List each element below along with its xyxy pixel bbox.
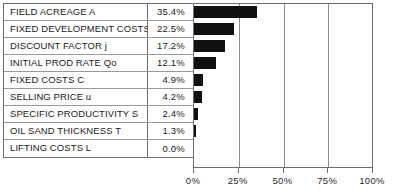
sensitivity-table: FIELD ACREAGE A35.4%FIXED DEVELOPMENT CO…: [3, 3, 193, 158]
bar-row: [194, 140, 372, 157]
parameter-label: SPECIFIC PRODUCTIVITY S: [4, 106, 148, 122]
bar-row: [194, 89, 372, 106]
parameter-label: INITIAL PROD RATE Qo: [4, 55, 148, 71]
bar: [194, 108, 198, 120]
axis-tick-label: 0%: [186, 175, 200, 186]
axis-tick: [283, 168, 284, 173]
axis-tick-label: 75%: [317, 175, 337, 186]
bar-row: [194, 72, 372, 89]
table-row: OIL SAND THICKNESS T1.3%: [4, 123, 193, 140]
table-row: INITIAL PROD RATE Qo12.1%: [4, 55, 193, 72]
bar: [194, 74, 203, 86]
bar-row: [194, 38, 372, 55]
parameter-value: 1.3%: [148, 123, 193, 139]
parameter-label: LIFTING COSTS L: [4, 140, 148, 157]
sensitivity-chart-screen: FIELD ACREAGE A35.4%FIXED DEVELOPMENT CO…: [0, 0, 396, 195]
parameter-value: 22.5%: [148, 21, 193, 37]
bar: [194, 91, 202, 103]
parameter-value: 17.2%: [148, 38, 193, 54]
table-row: SELLING PRICE u4.2%: [4, 89, 193, 106]
axis-tick: [327, 168, 328, 173]
bar-row: [194, 21, 372, 38]
bar: [194, 23, 234, 35]
parameter-value: 4.2%: [148, 89, 193, 105]
parameter-label: FIXED DEVELOPMENT COSTS: [4, 21, 148, 37]
parameter-value: 12.1%: [148, 55, 193, 71]
bar: [194, 40, 225, 52]
bar-row: [194, 123, 372, 140]
bar: [194, 57, 216, 69]
parameter-label: FIELD ACREAGE A: [4, 4, 148, 20]
parameter-value: 35.4%: [148, 4, 193, 20]
axis-tick: [193, 168, 194, 173]
axis-tick-label: 50%: [273, 175, 293, 186]
bars-layer: [194, 4, 372, 159]
table-row: SPECIFIC PRODUCTIVITY S2.4%: [4, 106, 193, 123]
parameter-value: 4.9%: [148, 72, 193, 88]
parameter-label: FIXED COSTS C: [4, 72, 148, 88]
parameter-value: 0.0%: [148, 141, 193, 157]
table-row: LIFTING COSTS L0.0%: [4, 140, 193, 157]
parameter-label: OIL SAND THICKNESS T: [4, 123, 148, 139]
bar-row: [194, 106, 372, 123]
table-row: FIXED DEVELOPMENT COSTS22.5%: [4, 21, 193, 38]
bar-row: [194, 4, 372, 21]
axis-tick-label: 100%: [359, 175, 385, 186]
plot-area: [193, 3, 373, 168]
bar-row: [194, 55, 372, 72]
axis-tick-label: 25%: [228, 175, 248, 186]
parameter-label: DISCOUNT FACTOR j: [4, 38, 148, 54]
parameter-value: 2.4%: [148, 106, 193, 122]
axis-tick: [372, 168, 373, 173]
axis-tick: [238, 168, 239, 173]
parameter-label: SELLING PRICE u: [4, 89, 148, 105]
table-row: FIXED COSTS C4.9%: [4, 72, 193, 89]
bar: [194, 125, 196, 137]
table-row: FIELD ACREAGE A35.4%: [4, 4, 193, 21]
table-row: DISCOUNT FACTOR j17.2%: [4, 38, 193, 55]
bar: [194, 6, 257, 18]
